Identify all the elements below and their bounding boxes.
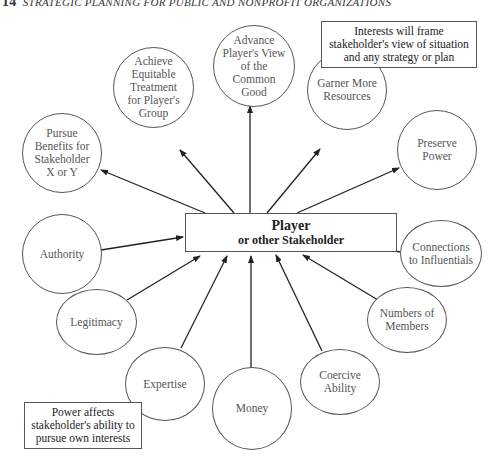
arrow-from-authority <box>101 237 183 250</box>
power-note: Power affects stakeholder's ability to p… <box>24 402 142 449</box>
power-coercive-ability: Coercive Ability <box>300 349 380 415</box>
power-numbers-of-members: Numbers of Members <box>367 287 447 353</box>
interest-label: Garner More Resources <box>317 77 377 103</box>
interest-achieve-equitable: Achieve Equitable Treatment for Player's… <box>113 47 194 128</box>
interest-label: Advance Player's View of the Common Good <box>223 34 286 99</box>
interest-label: Achieve Equitable Treatment for Player's… <box>127 55 179 120</box>
center-title: Player <box>272 218 311 233</box>
power-label: Numbers of Members <box>380 307 435 333</box>
power-label: Authority <box>40 248 85 261</box>
arrow-to-pursue-benefits <box>101 170 205 213</box>
interests-note: Interests will frame stakeholder's view … <box>321 21 477 68</box>
power-label: Expertise <box>143 378 186 391</box>
interest-pursue-benefits: Pursue Benefits for Stakeholder X or Y <box>22 113 102 193</box>
power-label: Coercive Ability <box>319 369 361 395</box>
interest-preserve-power: Preserve Power <box>397 110 477 190</box>
arrow-from-coercive-ability <box>276 255 322 351</box>
power-note-text: Power affects stakeholder's ability to p… <box>31 406 135 445</box>
interest-label: Pursue Benefits for Stakeholder X or Y <box>35 127 90 179</box>
power-label: Money <box>236 402 269 415</box>
arrow-to-garner-resources <box>267 149 320 213</box>
arrow-from-numbers-of-members <box>303 255 378 300</box>
interest-advance-common-good: Advance Player's View of the Common Good <box>213 25 295 107</box>
interest-label: Preserve Power <box>417 137 457 163</box>
power-connections: Connections to Influentials <box>400 220 482 287</box>
power-money: Money <box>212 367 292 450</box>
power-authority: Authority <box>22 214 102 294</box>
arrow-from-expertise <box>181 256 227 348</box>
arrow-from-legitimacy <box>127 256 200 300</box>
power-label: Legitimacy <box>70 316 122 329</box>
center-subtitle: or other Stakeholder <box>238 233 344 247</box>
power-legitimacy: Legitimacy <box>56 289 137 355</box>
power-label: Connections to Influentials <box>409 241 473 267</box>
arrow-to-preserve-power <box>297 168 399 213</box>
arrow-to-achieve-equitable <box>180 150 234 213</box>
player-stakeholder-box: Player or other Stakeholder <box>185 213 397 252</box>
interests-note-text: Interests will frame stakeholder's view … <box>329 25 469 64</box>
